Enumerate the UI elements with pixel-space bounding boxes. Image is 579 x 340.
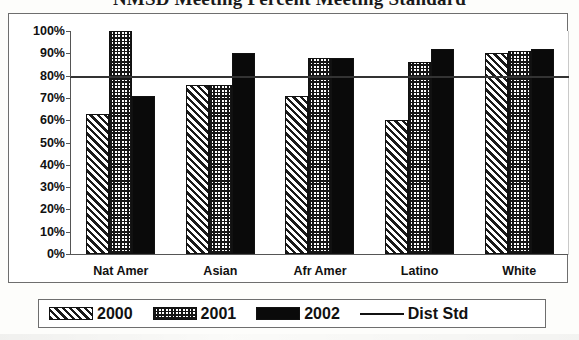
- legend-color-swatch: [256, 307, 300, 320]
- y-axis-tick-label: 40%: [11, 159, 65, 172]
- legend-label: 2000: [97, 305, 133, 323]
- bar-2002-white[interactable]: [531, 49, 554, 254]
- x-axis-line: [70, 254, 569, 255]
- bar-2001-latino[interactable]: [408, 62, 431, 254]
- bar-2001-nat-amer[interactable]: [109, 31, 132, 254]
- chart-frame: 100%90%80%70%60%50%40%30%20%10%0% Nat Am…: [8, 13, 568, 283]
- y-axis-tick-label: 70%: [11, 92, 65, 105]
- legend-item-2002[interactable]: 2002: [256, 305, 340, 323]
- x-axis-tick-label: Asian: [171, 264, 271, 286]
- y-axis-tick-mark: [66, 98, 71, 99]
- y-axis-tick-label: 80%: [11, 70, 65, 83]
- bar-group: [71, 31, 171, 254]
- y-axis-tick-label: 0%: [11, 248, 65, 261]
- y-axis-tick-mark: [66, 165, 71, 166]
- y-axis-tick-mark: [66, 143, 71, 144]
- plot-area: [71, 31, 569, 254]
- legend-label: 2002: [304, 305, 340, 323]
- legend-color-swatch: [153, 307, 197, 320]
- y-axis-labels: 100%90%80%70%60%50%40%30%20%10%0%: [9, 14, 65, 284]
- bar-2002-latino[interactable]: [431, 49, 454, 254]
- bar-2000-afr-amer[interactable]: [285, 96, 308, 254]
- y-axis-tick-mark: [66, 31, 71, 32]
- x-axis-labels: Nat AmerAsianAfr AmerLatinoWhite: [71, 264, 569, 286]
- bar-2002-asian[interactable]: [232, 53, 255, 254]
- y-axis-tick-mark: [66, 254, 71, 255]
- bar-2001-white[interactable]: [508, 51, 531, 254]
- chart-legend: 200020012002Dist Std: [38, 299, 546, 328]
- y-axis-tick-label: 20%: [11, 203, 65, 216]
- x-axis-tick-label: White: [469, 264, 569, 286]
- bar-2001-asian[interactable]: [209, 85, 232, 254]
- legend-line-swatch: [360, 313, 404, 315]
- bar-2002-nat-amer[interactable]: [132, 96, 155, 254]
- y-axis-tick-mark: [66, 53, 71, 54]
- legend-color-swatch: [49, 307, 93, 320]
- y-axis-tick-mark: [66, 76, 71, 77]
- bar-2000-nat-amer[interactable]: [86, 114, 109, 254]
- y-axis-tick-label: 90%: [11, 47, 65, 60]
- bar-group: [469, 31, 569, 254]
- legend-label: 2001: [201, 305, 237, 323]
- legend-item-2001[interactable]: 2001: [153, 305, 237, 323]
- legend-item-2000[interactable]: 2000: [49, 305, 133, 323]
- y-axis-tick-label: 10%: [11, 226, 65, 239]
- bar-2001-afr-amer[interactable]: [308, 58, 331, 254]
- x-axis-tick-label: Latino: [370, 264, 470, 286]
- bar-2002-afr-amer[interactable]: [331, 58, 354, 254]
- y-axis-tick-label: 60%: [11, 114, 65, 127]
- bar-group: [370, 31, 470, 254]
- dist-std-reference-line: [70, 76, 569, 78]
- legend-item-dist-std[interactable]: Dist Std: [360, 305, 468, 323]
- y-axis-tick-mark: [66, 187, 71, 188]
- y-axis-tick-label: 30%: [11, 181, 65, 194]
- x-axis-tick-label: Afr Amer: [270, 264, 370, 286]
- y-axis-tick-mark: [66, 209, 71, 210]
- bar-group: [171, 31, 271, 254]
- scan-artifact: [0, 334, 579, 340]
- y-axis-tick-label: 50%: [11, 137, 65, 150]
- page-title: NMSD Meeting Percent Meeting Standard: [113, 0, 466, 10]
- bar-2000-latino[interactable]: [385, 120, 408, 254]
- y-axis-tick-mark: [66, 232, 71, 233]
- bar-group: [270, 31, 370, 254]
- y-axis-tick-mark: [66, 120, 71, 121]
- bar-2000-white[interactable]: [485, 53, 508, 254]
- y-axis-tick-label: 100%: [11, 25, 65, 38]
- chart-title-strip: NMSD Meeting Percent Meeting Standard: [0, 0, 579, 13]
- legend-label: Dist Std: [408, 305, 468, 323]
- x-axis-tick-label: Nat Amer: [71, 264, 171, 286]
- bar-2000-asian[interactable]: [186, 85, 209, 254]
- bar-groups: [71, 31, 569, 254]
